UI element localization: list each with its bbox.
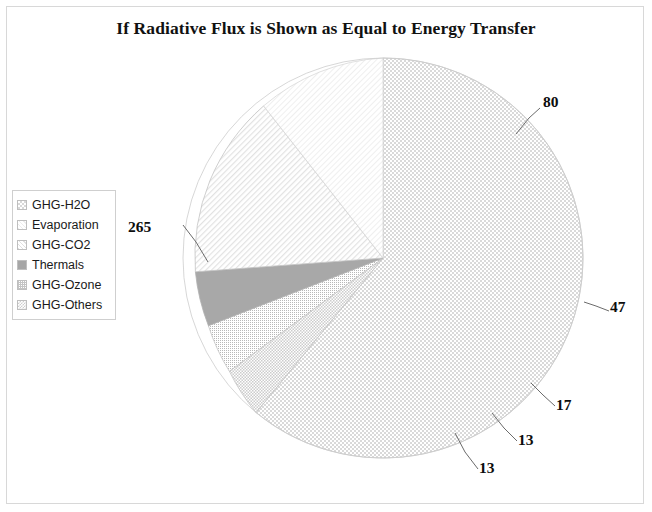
- legend-swatch-icon-ghg-h2o: [17, 200, 27, 210]
- legend-item-thermals[interactable]: Thermals: [17, 255, 112, 275]
- value-label-evaporation: 80: [543, 93, 559, 111]
- value-label-ghg-others: 13: [479, 459, 495, 477]
- legend-item-ghg-ozone[interactable]: GHG-Ozone: [17, 275, 112, 295]
- leader-line-47: [584, 302, 609, 311]
- chart-page: If Radiative Flux is Shown as Equal to E…: [0, 0, 652, 512]
- legend-swatch-icon-evaporation: [17, 220, 27, 230]
- legend-label-ghg-h2o: GHG-H2O: [32, 199, 90, 212]
- value-label-ghg-co2: 47: [610, 298, 626, 316]
- legend-item-evaporation[interactable]: Evaporation: [17, 215, 112, 235]
- value-label-ghg-h2o: 265: [128, 218, 151, 236]
- chart-legend: GHG-H2O Evaporation GHG-CO2 Thermals GHG…: [12, 190, 116, 320]
- legend-swatch-icon-ghg-ozone: [17, 280, 27, 290]
- legend-label-ghg-ozone: GHG-Ozone: [32, 279, 101, 292]
- legend-label-ghg-others: GHG-Others: [32, 299, 102, 312]
- legend-item-ghg-others[interactable]: GHG-Others: [17, 295, 112, 315]
- legend-label-thermals: Thermals: [32, 259, 84, 272]
- legend-swatch-icon-ghg-others: [17, 300, 27, 310]
- legend-item-ghg-co2[interactable]: GHG-CO2: [17, 235, 112, 255]
- value-label-ghg-ozone: 13: [518, 431, 534, 449]
- legend-item-ghg-h2o[interactable]: GHG-H2O: [17, 195, 112, 215]
- value-label-thermals: 17: [556, 396, 572, 414]
- legend-label-ghg-co2: GHG-CO2: [32, 239, 90, 252]
- legend-swatch-icon-thermals: [17, 260, 27, 270]
- legend-swatch-icon-ghg-co2: [17, 240, 27, 250]
- leader-line-17: [531, 383, 555, 406]
- legend-label-evaporation: Evaporation: [32, 219, 99, 232]
